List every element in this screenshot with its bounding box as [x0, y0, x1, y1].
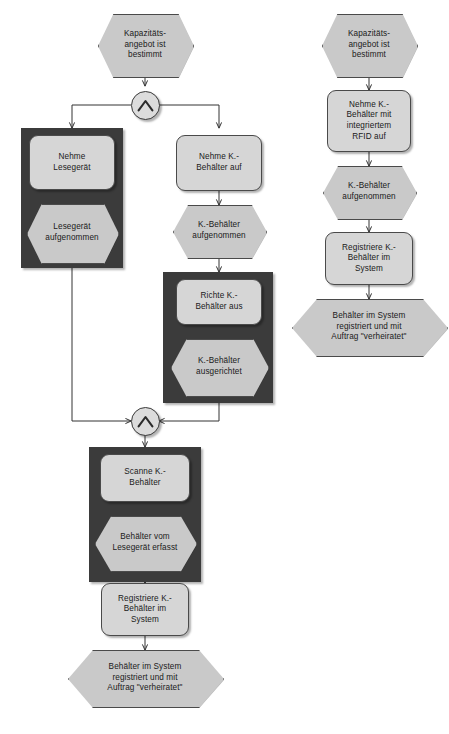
- diagram-canvas: Kapazitäts- angebot ist bestimmt Nehme L…: [0, 0, 449, 734]
- mid-ev-behaelter-aufgenommen[interactable]: K.-Behälter aufgenommen: [173, 205, 265, 257]
- mid-fn-richte-behaelter-label: Richte K.- Behälter aus: [191, 291, 246, 312]
- right-ev-behaelter-aufgenommen[interactable]: K.-Behälter aufgenommen: [323, 166, 415, 218]
- left-ev-lesegeraet-aufgenommen-label: Lesegerät aufgenommen: [41, 222, 102, 243]
- ev-behaelter-vom-lesegeraet-erfasst-label: Behälter vom Lesegerät erfasst: [109, 532, 182, 553]
- right-end-event[interactable]: Behälter im System registriert und mit A…: [292, 299, 446, 355]
- right-fn-nehme-behaelter-rfid-label: Nehme K.- Behälter mit integriertem RFID…: [343, 100, 396, 142]
- left-fn-nehme-lesegeraet-label: Nehme Lesegerät: [49, 152, 94, 173]
- mid-fn-richte-behaelter[interactable]: Richte K.- Behälter aus: [176, 279, 262, 325]
- fn-registriere-behaelter-links-label: Registriere K.- Behälter im System: [114, 594, 176, 626]
- left-start-event-label: Kapazitäts- angebot ist bestimmt: [120, 29, 170, 61]
- and-split-connector[interactable]: [131, 91, 160, 120]
- fn-registriere-behaelter-links[interactable]: Registriere K.- Behälter im System: [101, 583, 189, 636]
- left-end-event-label: Behälter im System registriert und mit A…: [103, 662, 186, 694]
- left-ev-lesegeraet-aufgenommen[interactable]: Lesegerät aufgenommen: [27, 204, 117, 262]
- and-join-connector[interactable]: [131, 407, 160, 436]
- left-end-event[interactable]: Behälter im System registriert und mit A…: [68, 650, 222, 706]
- mid-ev-behaelter-ausgerichtet-label: K.-Behälter ausgerichtet: [192, 356, 246, 377]
- fn-scanne-behaelter-label: Scanne K.- Behälter: [120, 467, 170, 488]
- right-end-event-label: Behälter im System registriert und mit A…: [327, 311, 410, 343]
- right-fn-registriere-behaelter[interactable]: Registriere K.- Behälter im System: [325, 232, 413, 285]
- mid-fn-nehme-behaelter-label: Nehme K.- Behälter auf: [192, 152, 245, 173]
- left-fn-nehme-lesegeraet[interactable]: Nehme Lesegerät: [29, 135, 115, 190]
- right-ev-behaelter-aufgenommen-label: K.-Behälter aufgenommen: [338, 181, 399, 202]
- and-caret-icon: [137, 99, 154, 112]
- and-caret-icon: [137, 415, 154, 428]
- fn-scanne-behaelter[interactable]: Scanne K.- Behälter: [100, 454, 190, 502]
- mid-fn-nehme-behaelter[interactable]: Nehme K.- Behälter auf: [176, 135, 262, 191]
- left-start-event[interactable]: Kapazitäts- angebot ist bestimmt: [98, 14, 192, 76]
- ev-behaelter-vom-lesegeraet-erfasst[interactable]: Behälter vom Lesegerät erfasst: [95, 516, 195, 570]
- right-fn-nehme-behaelter-rfid[interactable]: Nehme K.- Behälter mit integriertem RFID…: [327, 90, 411, 152]
- right-start-event[interactable]: Kapazitäts- angebot ist bestimmt: [322, 14, 416, 76]
- right-start-event-label: Kapazitäts- angebot ist bestimmt: [344, 29, 394, 61]
- right-fn-registriere-behaelter-label: Registriere K.- Behälter im System: [338, 243, 400, 275]
- mid-ev-behaelter-ausgerichtet[interactable]: K.-Behälter ausgerichtet: [171, 339, 267, 395]
- mid-ev-behaelter-aufgenommen-label: K.-Behälter aufgenommen: [188, 220, 249, 241]
